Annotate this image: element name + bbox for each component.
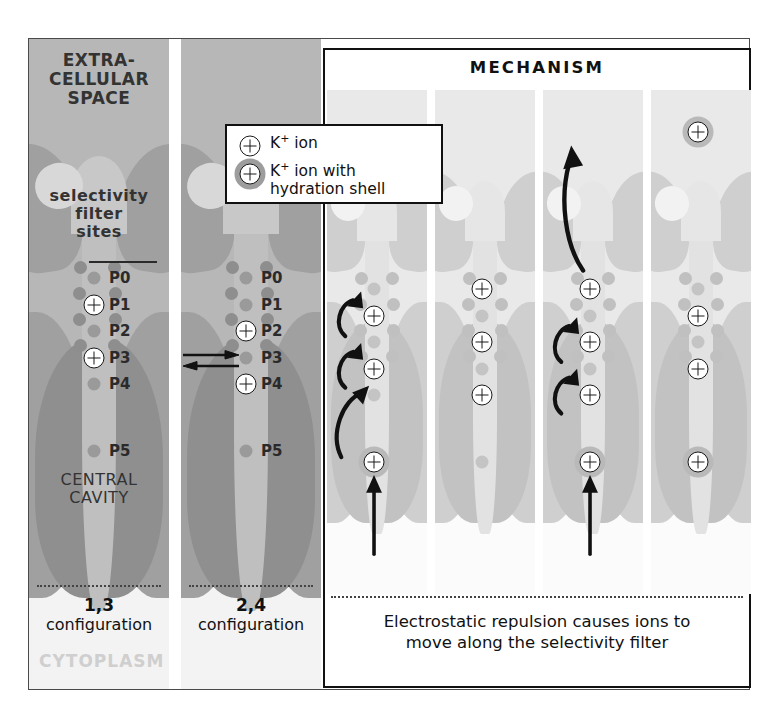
mechanism-title: MECHANISM [325, 58, 749, 77]
site-dot-p0 [692, 283, 705, 296]
site-dot-p5 [476, 456, 489, 469]
k-ion-p2 [236, 321, 257, 342]
panel-config-13: EXTRA- CELLULAR SPACE selectivity filter… [29, 39, 169, 689]
mechanism-step-2 [435, 90, 535, 594]
site-label-p0: P0 [261, 269, 282, 287]
site-dot-p2 [692, 336, 705, 349]
site-dot-p5 [240, 445, 253, 458]
k-ion-extracellular-hydrated [688, 122, 709, 143]
legend-label-line2: hydration shell [270, 180, 385, 198]
site-dot-p3 [240, 352, 253, 365]
site-dot-p4 [88, 378, 101, 391]
caption-config-13-rest: configuration [29, 615, 169, 634]
caption-dotted-divider [331, 596, 743, 598]
mechanism-caption-line2: move along the selectivity filter [331, 633, 743, 654]
k-ion-p4 [236, 374, 257, 395]
extracellular-space-label: EXTRA- CELLULAR SPACE [29, 51, 169, 108]
legend-sup-plus-2: + [280, 160, 289, 173]
legend-label-rest-2: ion with [289, 162, 355, 180]
caption-config-13-bold: 1,3 [84, 595, 114, 615]
caption-dotted-divider [189, 585, 313, 587]
k-ion-p4 [472, 385, 493, 406]
site-dot-p3 [476, 363, 489, 376]
site-dot-p5 [88, 445, 101, 458]
site-label-p3: P3 [261, 349, 282, 367]
legend-label-k-2: K [270, 162, 280, 180]
site-label-p2: P2 [109, 322, 130, 340]
k-ion-p0 [472, 279, 493, 300]
caption-dotted-divider [37, 585, 161, 587]
mechanism-step-4 [651, 90, 751, 594]
k-ion-icon [239, 135, 261, 157]
equilibrium-arrows [181, 345, 241, 375]
site-dot-p0 [88, 272, 101, 285]
k-ion-cavity-hydrated [688, 452, 709, 473]
legend-item-k-ion-hydrated: K+ ion withhydration shell [237, 161, 441, 198]
mechanism-step-3 [543, 90, 643, 594]
caption-config-24: 2,4 configuration [181, 595, 321, 635]
mechanism-caption-line1: Electrostatic repulsion causes ions to [331, 612, 743, 633]
legend-label-rest: ion [289, 134, 318, 152]
site-label-p0: P0 [109, 269, 130, 287]
legend-box: K+ ion K+ ion withhydration shell [225, 124, 443, 204]
mechanism-arrows-step-3 [543, 90, 643, 594]
caption-config-24-bold: 2,4 [236, 595, 266, 615]
k-ion-p1 [688, 306, 709, 327]
site-label-p4: P4 [261, 375, 282, 393]
legend-item-k-ion: K+ ion [237, 133, 441, 157]
caption-config-13: 1,3 configuration [29, 595, 169, 635]
k-ion-p1 [84, 295, 105, 316]
site-dot-p1 [240, 299, 253, 312]
cytoplasm-label: CYTOPLASM [39, 651, 164, 671]
site-dot-p1 [476, 310, 489, 323]
k-ion-p3 [84, 348, 105, 369]
site-label-p5: P5 [261, 442, 282, 460]
k-ion-p2 [472, 332, 493, 353]
k-ion-hydrated-icon [239, 163, 261, 185]
selectivity-filter-sites-label: selectivity filter sites [29, 187, 169, 241]
site-label-p1: P1 [261, 296, 282, 314]
caption-config-24-rest: configuration [181, 615, 321, 634]
central-cavity-label: CENTRAL CAVITY [29, 471, 169, 507]
legend-label-k: K [270, 134, 280, 152]
site-dot-p0 [240, 272, 253, 285]
label-underline [89, 261, 157, 263]
site-label-p2: P2 [261, 322, 282, 340]
site-dot-p2 [88, 325, 101, 338]
legend-sup-plus: + [280, 132, 289, 145]
site-label-p3: P3 [109, 349, 130, 367]
figure-frame: EXTRA- CELLULAR SPACE selectivity filter… [28, 38, 750, 690]
site-label-p5: P5 [109, 442, 130, 460]
site-label-p1: P1 [109, 296, 130, 314]
mechanism-caption: Electrostatic repulsion causes ions to m… [331, 596, 743, 680]
k-ion-p3 [688, 359, 709, 380]
site-label-p4: P4 [109, 375, 130, 393]
